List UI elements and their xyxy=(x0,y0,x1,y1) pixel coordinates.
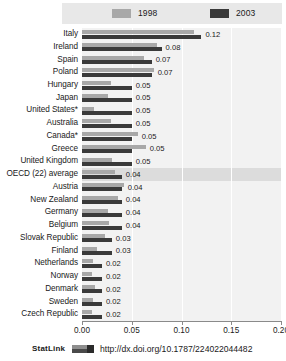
bar-2003 xyxy=(82,289,102,293)
bar-1998 xyxy=(82,247,97,251)
category-label: Sweden xyxy=(0,296,78,309)
statlink-url[interactable]: http://dx.doi.org/10.1787/224022044482 xyxy=(100,343,252,355)
bar-row: Finland0.03 xyxy=(0,245,286,258)
data-label: 0.12 xyxy=(205,30,220,39)
bar-1998 xyxy=(82,56,144,60)
bar-2003 xyxy=(82,137,132,141)
bar-row: Japan0.05 xyxy=(0,92,286,105)
category-label: Greece xyxy=(0,143,78,156)
category-label: Belgium xyxy=(0,219,78,232)
bar-row: Austria0.04 xyxy=(0,181,286,194)
data-label: 0.07 xyxy=(158,68,173,77)
bar-2003 xyxy=(82,187,122,191)
bar-1998 xyxy=(82,170,115,174)
x-tick-label: 0.00 xyxy=(62,326,102,336)
data-label: 0.08 xyxy=(166,43,181,52)
data-label: 0.03 xyxy=(116,246,131,255)
category-label: Netherlands xyxy=(0,257,78,270)
legend-item-2003: 2003 xyxy=(210,8,255,19)
x-tick-label: 0.15 xyxy=(211,326,251,336)
bar-row: Greece0.05 xyxy=(0,143,286,156)
category-label: Ireland xyxy=(0,41,78,54)
bar-2003 xyxy=(82,111,132,115)
bar-1998 xyxy=(82,259,93,263)
data-label: 0.05 xyxy=(136,81,151,90)
bar-2003 xyxy=(82,73,152,77)
category-label: OECD (22) average xyxy=(0,168,78,181)
category-label: Czech Republic xyxy=(0,308,78,321)
bar-2003 xyxy=(82,302,102,306)
bar-1998 xyxy=(82,81,111,85)
category-label: Denmark xyxy=(0,283,78,296)
bar-1998 xyxy=(82,196,118,200)
bar-1998 xyxy=(82,234,105,238)
category-label: Spain xyxy=(0,54,78,67)
bar-row: Denmark0.02 xyxy=(0,283,286,296)
category-label: Germany xyxy=(0,206,78,219)
bar-2003 xyxy=(82,86,132,90)
chart-footer: StatLink http://dx.doi.org/10.1787/22402… xyxy=(0,343,286,359)
category-label: Italy xyxy=(0,28,78,41)
bar-2003 xyxy=(82,124,132,128)
category-label: United Kingdom xyxy=(0,155,78,168)
bar-2003 xyxy=(82,200,122,204)
bar-2003 xyxy=(82,213,122,217)
bar-2003 xyxy=(82,162,132,166)
legend-swatch-2003 xyxy=(210,9,229,18)
chart-legend: 19982003 xyxy=(62,3,282,24)
data-label: 0.07 xyxy=(156,55,171,64)
bar-2003 xyxy=(82,315,102,319)
x-tick-label: 0.20 xyxy=(261,326,286,336)
data-label: 0.05 xyxy=(136,93,151,102)
statlink-label: StatLink xyxy=(32,343,65,355)
bar-1998 xyxy=(82,119,111,123)
bar-row: United States*0.05 xyxy=(0,104,286,117)
data-label: 0.04 xyxy=(126,208,141,217)
category-label: Norway xyxy=(0,270,78,283)
bar-1998 xyxy=(82,43,157,47)
bar-row: Netherlands0.02 xyxy=(0,257,286,270)
data-label: 0.02 xyxy=(106,310,121,319)
bar-1998 xyxy=(82,68,154,72)
bar-2003 xyxy=(82,35,201,39)
x-tick xyxy=(281,321,282,325)
bar-2003 xyxy=(82,175,122,179)
category-label: United States* xyxy=(0,104,78,117)
category-label: Japan xyxy=(0,92,78,105)
bar-1998 xyxy=(82,158,112,162)
x-tick xyxy=(82,321,83,325)
category-label: Canada* xyxy=(0,130,78,143)
bar-2003 xyxy=(82,251,112,255)
data-label: 0.03 xyxy=(116,234,131,243)
bar-2003 xyxy=(82,149,132,153)
category-label: New Zealand xyxy=(0,194,78,207)
bar-row: Sweden0.02 xyxy=(0,296,286,309)
bar-1998 xyxy=(82,132,138,136)
bar-row: Belgium0.04 xyxy=(0,219,286,232)
bar-row: New Zealand0.04 xyxy=(0,194,286,207)
category-label: Poland xyxy=(0,66,78,79)
x-tick-label: 0.05 xyxy=(112,326,152,336)
x-tick xyxy=(231,321,232,325)
bar-row: Ireland0.08 xyxy=(0,41,286,54)
bar-row: Slovak Republic0.03 xyxy=(0,232,286,245)
bar-row: Spain0.07 xyxy=(0,53,286,66)
bar-2003 xyxy=(82,226,122,230)
bar-row: Italy0.12 xyxy=(0,28,286,41)
statlink-logo-icon xyxy=(72,345,94,353)
bar-row: Norway0.02 xyxy=(0,270,286,283)
bar-row: Germany0.04 xyxy=(0,206,286,219)
data-label: 0.05 xyxy=(150,144,165,153)
bar-row: Canada*0.05 xyxy=(0,130,286,143)
category-label: Hungary xyxy=(0,79,78,92)
bar-row: OECD (22) average0.04 xyxy=(0,168,286,181)
chart-container: 19982003 Italy0.12Ireland0.08Spain0.07Po… xyxy=(0,0,286,361)
bar-2003 xyxy=(82,98,132,102)
bar-2003 xyxy=(82,277,102,281)
category-label: Slovak Republic xyxy=(0,232,78,245)
x-tick xyxy=(132,321,133,325)
bar-1998 xyxy=(82,30,194,34)
bar-row: Czech Republic0.02 xyxy=(0,308,286,321)
x-tick xyxy=(182,321,183,325)
data-label: 0.02 xyxy=(106,285,121,294)
